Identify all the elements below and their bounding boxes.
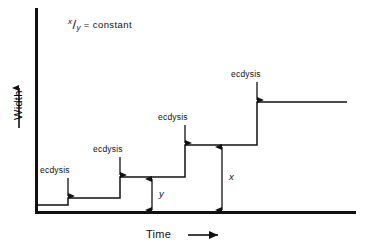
- dimension-label-x: x: [229, 172, 234, 182]
- ecdysis-label-3: ecdysis: [158, 113, 188, 122]
- figure-root: x / y = constant ecdysis ecdysis ecdysis…: [0, 0, 378, 248]
- step-chart-svg: [0, 0, 378, 248]
- ecdysis-label-2: ecdysis: [93, 145, 123, 154]
- ecdysis-label-4: ecdysis: [231, 70, 261, 79]
- width-step-curve: [38, 102, 347, 205]
- ratio-fraction: x / y: [68, 17, 81, 32]
- dimension-label-y: y: [159, 189, 164, 199]
- y-axis-label-wrapper: Width: [8, 90, 26, 120]
- y-axis-label: Width: [12, 90, 24, 120]
- ratio-equals-text: = constant: [84, 19, 132, 30]
- x-axis-label: Time: [146, 229, 171, 240]
- ratio-annotation: x / y = constant: [68, 17, 132, 32]
- ecdysis-label-1: ecdysis: [40, 166, 70, 175]
- ratio-numerator: x: [68, 17, 72, 26]
- ratio-denominator: y: [76, 23, 80, 32]
